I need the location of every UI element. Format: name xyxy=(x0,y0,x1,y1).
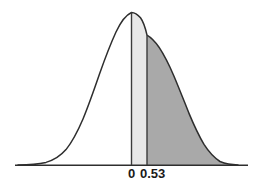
normal-distribution-figure: 0 0.53 xyxy=(0,0,259,191)
x-tick-label-zero: 0 xyxy=(125,167,138,180)
dark-shaded-region xyxy=(147,35,238,165)
light-shaded-region xyxy=(132,13,148,166)
normal-curve xyxy=(18,13,238,166)
distribution-plot xyxy=(0,0,259,191)
x-tick-label-cutoff: 0.53 xyxy=(140,167,165,180)
